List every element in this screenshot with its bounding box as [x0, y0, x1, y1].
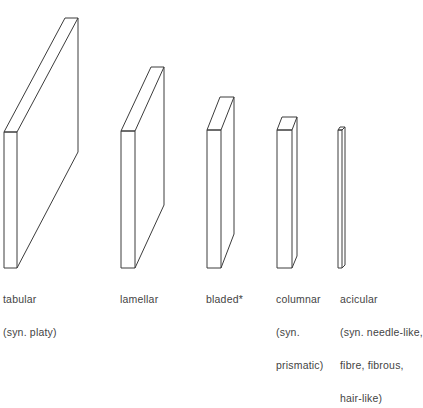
label-line: tabular — [3, 294, 57, 305]
label-tabular: tabular (syn. platy) — [3, 272, 57, 360]
label-lamellar: lamellar — [120, 272, 158, 327]
label-line: (syn. needle-like, — [340, 327, 423, 338]
label-columnar: columnar (syn. prismatic) — [276, 272, 324, 393]
shape-columnar — [277, 117, 297, 268]
label-line: fibre, fibrous, — [340, 360, 423, 371]
label-line: hair-like) — [340, 393, 423, 404]
label-line: acicular — [340, 294, 423, 305]
label-line: columnar — [276, 294, 324, 305]
label-line: lamellar — [120, 294, 158, 305]
label-line: bladed* — [206, 294, 243, 305]
label-line: (syn. platy) — [3, 327, 57, 338]
label-acicular: acicular (syn. needle-like, fibre, fibro… — [340, 272, 423, 408]
label-line: prismatic) — [276, 360, 324, 371]
shape-acicular — [338, 127, 345, 268]
shape-tabular — [4, 18, 78, 268]
shape-bladed — [207, 97, 234, 268]
shape-lamellar — [121, 67, 164, 268]
label-bladed: bladed* — [206, 272, 243, 327]
label-line: (syn. — [276, 327, 324, 338]
